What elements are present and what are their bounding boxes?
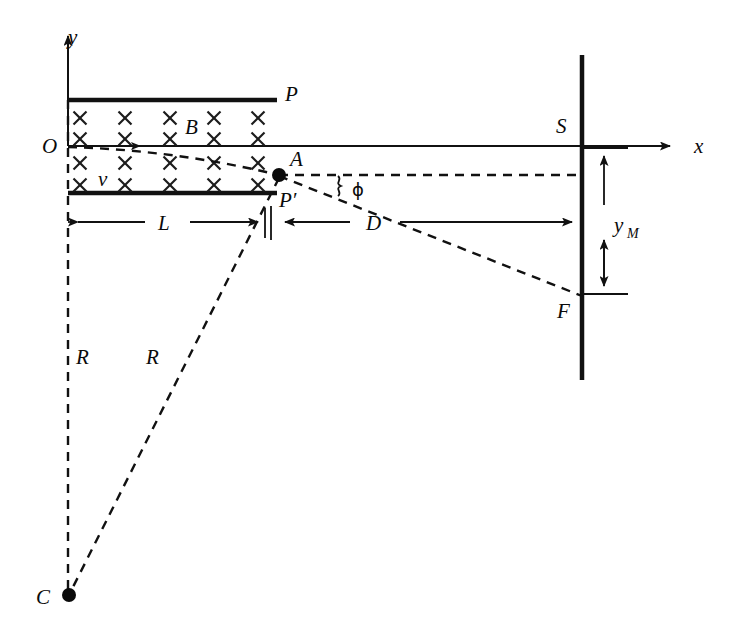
into-page-field-cross: [164, 133, 177, 146]
plate-bottom-label: P′: [278, 188, 297, 212]
radius-line-A-to-C: [69, 178, 279, 595]
deflection-label: y: [612, 213, 624, 237]
straight-path-A-to-F: [279, 176, 582, 296]
into-page-field-cross: [252, 112, 265, 125]
into-page-field-cross: [119, 133, 132, 146]
field-label: B: [185, 115, 198, 139]
deflection-subscript: M: [626, 226, 640, 241]
into-page-field-cross: [164, 157, 177, 170]
radius-right-label: R: [145, 345, 159, 369]
velocity-label: v: [98, 167, 108, 191]
into-page-field-cross: [208, 133, 221, 146]
length-L-label: L: [157, 211, 170, 235]
into-page-field-cross: [252, 157, 265, 170]
angle-brace-phi: [338, 176, 341, 196]
exit-point-A: [272, 168, 286, 182]
into-page-field-cross: [208, 179, 221, 192]
x-axis-label: x: [693, 134, 704, 158]
into-page-field-cross: [119, 179, 132, 192]
physics-diagram: y x O P P′ B v A S F L D R R C ϕ y M: [0, 0, 742, 644]
exit-point-label: A: [288, 147, 303, 171]
radius-left-label: R: [75, 345, 89, 369]
into-page-field-cross: [74, 112, 87, 125]
screen-label: S: [556, 114, 567, 138]
into-page-field-cross: [119, 157, 132, 170]
into-page-field-cross: [252, 179, 265, 192]
into-page-field-cross: [164, 112, 177, 125]
into-page-field-cross: [208, 112, 221, 125]
into-page-field-cross: [74, 133, 87, 146]
origin-label: O: [42, 134, 57, 158]
plate-top-label: P: [284, 82, 298, 106]
into-page-field-cross: [252, 133, 265, 146]
into-page-field-cross: [74, 179, 87, 192]
spot-label: F: [556, 299, 570, 323]
deflection-yM-label: y M: [612, 213, 640, 241]
distance-D-label: D: [365, 211, 381, 235]
angle-phi-label: ϕ: [352, 179, 364, 200]
into-page-field-cross: [119, 112, 132, 125]
y-axis-label: y: [66, 25, 78, 49]
center-point-C: [62, 588, 76, 602]
into-page-field-cross: [164, 179, 177, 192]
center-label: C: [36, 585, 51, 609]
into-page-field-cross: [74, 157, 87, 170]
